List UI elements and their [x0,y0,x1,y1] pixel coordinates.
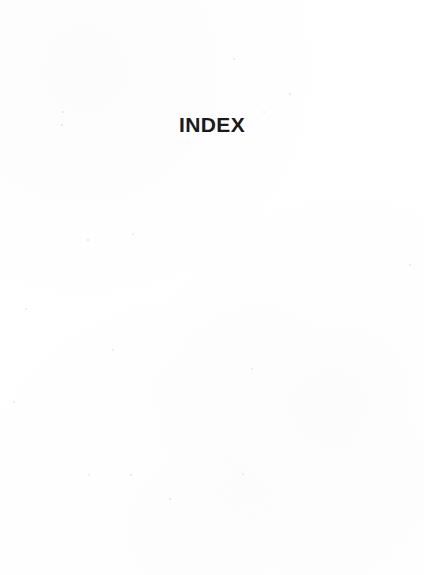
scan-speck [62,111,64,113]
page-canvas: INDEX [0,0,424,575]
section-heading-block: INDEX [0,114,424,136]
page-title: INDEX [179,114,245,136]
page-body-blank [0,150,424,575]
scan-speck [233,58,235,60]
scan-speck [263,111,264,112]
scan-speck [289,93,291,95]
